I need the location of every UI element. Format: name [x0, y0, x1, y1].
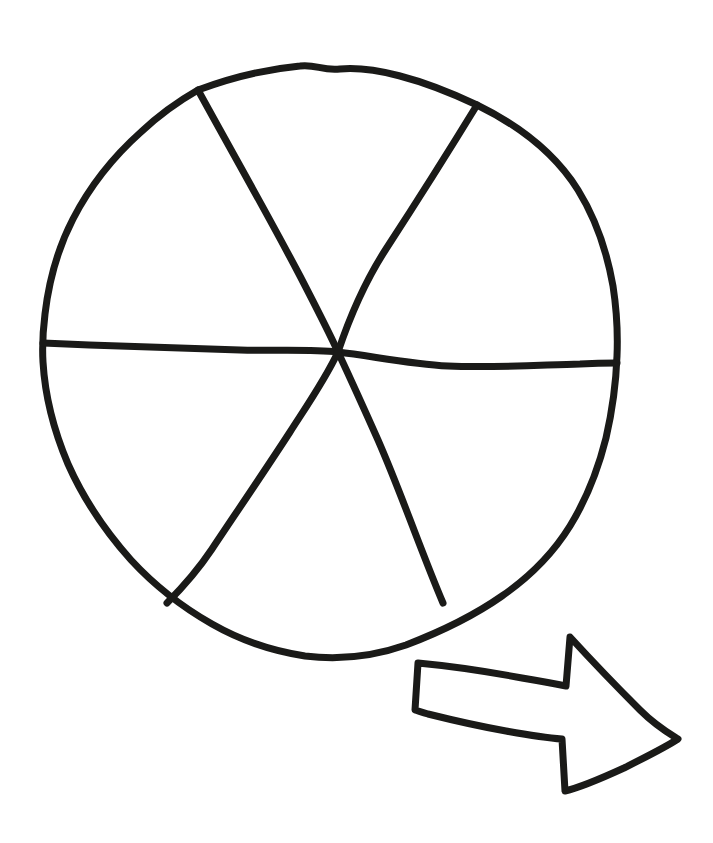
worksheet-canvas: A hand-drawn circle split into six equal… [0, 0, 713, 843]
drawing-canvas [0, 0, 713, 843]
